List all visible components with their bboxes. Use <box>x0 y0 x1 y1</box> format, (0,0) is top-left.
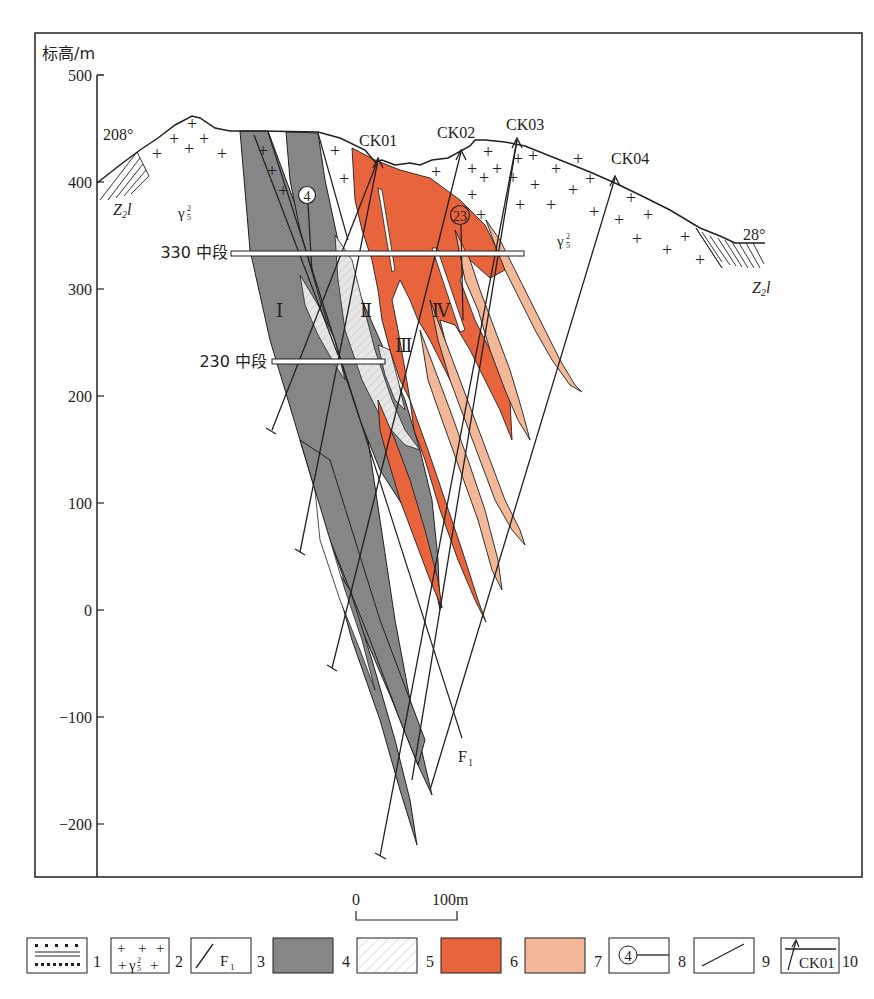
svg-text:+: + <box>614 210 624 230</box>
y-axis-title: 标高/m <box>42 44 95 63</box>
ore-body-2: Ⅱ <box>360 301 372 321</box>
y-tick-minus200: −200 <box>59 816 92 833</box>
azimuth-left: 208° <box>103 126 133 143</box>
azimuth-right: 28° <box>743 226 765 243</box>
svg-text:+: + <box>117 940 125 956</box>
svg-text:+: + <box>546 195 556 215</box>
svg-text:4: 4 <box>624 948 632 964</box>
legend: 1 + + + + γ 2 5 + 2 F 1 3 4 <box>27 938 858 973</box>
y-tick-200: 200 <box>68 388 92 405</box>
svg-text:+: + <box>551 159 561 179</box>
svg-text:+: + <box>467 159 477 179</box>
stratum-hatch-left <box>100 152 149 200</box>
ore-body-1: Ⅰ <box>276 301 283 321</box>
svg-text:5: 5 <box>566 241 570 250</box>
svg-text:+: + <box>479 168 489 188</box>
svg-text:F: F <box>220 953 228 969</box>
legend-item-9: 9 <box>694 938 770 973</box>
svg-text:+: + <box>492 159 502 179</box>
svg-text:5: 5 <box>187 213 191 222</box>
stratum-label-left: Z2l <box>113 201 132 220</box>
svg-text:+: + <box>589 202 599 222</box>
svg-text:+: + <box>573 149 583 169</box>
svg-text:+: + <box>187 114 197 134</box>
svg-text:10: 10 <box>842 953 858 970</box>
svg-text:2: 2 <box>566 232 570 241</box>
svg-text:+: + <box>626 188 636 208</box>
svg-text:γ: γ <box>177 205 185 221</box>
ore-body-3: Ⅲ <box>395 336 412 356</box>
label-ck02: CK02 <box>437 124 475 141</box>
svg-text:+: + <box>632 229 642 249</box>
legend-item-5: 5 <box>357 938 434 973</box>
svg-text:1: 1 <box>230 962 235 972</box>
svg-text:+: + <box>330 141 340 161</box>
svg-text:+: + <box>138 940 146 956</box>
svg-text:+: + <box>431 162 441 182</box>
ore-body-4: Ⅳ <box>432 301 451 321</box>
svg-text:+: + <box>643 205 653 225</box>
scale-bar: 0 100m <box>352 891 469 920</box>
legend-item-7: 7 <box>525 938 602 973</box>
svg-text:+: + <box>339 169 349 189</box>
svg-text:+: + <box>662 240 672 260</box>
svg-text:1: 1 <box>93 953 101 970</box>
legend-item-10: CK01 10 <box>781 938 858 973</box>
svg-text:+: + <box>515 195 525 215</box>
svg-text:2: 2 <box>175 953 183 970</box>
svg-text:1: 1 <box>468 757 473 768</box>
svg-text:+: + <box>152 144 162 164</box>
legend-item-4: 4 <box>273 938 350 973</box>
cross-section-figure: 标高/m 500 400 300 200 100 0 −100 −200 <box>0 0 874 999</box>
svg-text:+: + <box>267 161 277 181</box>
svg-text:5: 5 <box>137 964 141 973</box>
label-ck03: CK03 <box>506 116 544 133</box>
svg-text:+: + <box>530 175 540 195</box>
svg-text:230 中段: 230 中段 <box>199 352 267 371</box>
svg-text:+: + <box>184 139 194 159</box>
svg-text:330 中段: 330 中段 <box>160 243 228 262</box>
svg-text:+: + <box>169 129 179 149</box>
legend-item-2: + + + + γ 2 5 + 2 <box>111 938 183 973</box>
svg-text:9: 9 <box>762 953 770 970</box>
label-ck04: CK04 <box>611 150 649 167</box>
svg-text:CK01: CK01 <box>799 955 835 971</box>
svg-text:+: + <box>118 957 126 973</box>
fault-f1-label: F 1 <box>458 748 473 768</box>
svg-text:7: 7 <box>594 953 602 970</box>
y-axis: 标高/m 500 400 300 200 100 0 −100 −200 <box>42 44 104 877</box>
svg-text:F: F <box>458 748 467 765</box>
y-tick-minus100: −100 <box>59 709 92 726</box>
svg-text:8: 8 <box>678 953 686 970</box>
svg-text:+: + <box>467 185 477 205</box>
svg-text:3: 3 <box>257 953 265 970</box>
svg-text:6: 6 <box>510 953 518 970</box>
y-tick-0: 0 <box>84 602 92 619</box>
label-ck01: CK01 <box>359 132 397 149</box>
svg-text:+: + <box>680 227 690 247</box>
svg-text:+: + <box>476 205 486 225</box>
svg-text:+: + <box>585 169 595 189</box>
svg-text:0: 0 <box>352 891 360 908</box>
svg-text:γ: γ <box>556 233 564 249</box>
svg-text:4: 4 <box>342 953 350 970</box>
svg-text:Z2l: Z2l <box>113 201 132 220</box>
legend-item-1: 1 <box>27 938 101 973</box>
svg-text:Z2l: Z2l <box>752 279 771 298</box>
svg-text:4: 4 <box>304 189 311 204</box>
stratum-label-right: Z2l <box>752 279 771 298</box>
svg-text:γ: γ <box>128 957 136 973</box>
svg-text:100m: 100m <box>432 891 469 908</box>
svg-text:+: + <box>695 250 705 270</box>
legend-item-8: 4 8 <box>609 938 686 973</box>
svg-text:2: 2 <box>187 204 191 213</box>
y-tick-400: 400 <box>68 174 92 191</box>
y-tick-500: 500 <box>68 67 92 84</box>
svg-text:+: + <box>199 129 209 149</box>
svg-text:+: + <box>528 146 538 166</box>
svg-text:5: 5 <box>426 953 434 970</box>
y-tick-300: 300 <box>68 281 92 298</box>
svg-text:+: + <box>217 144 227 164</box>
legend-item-6: 6 <box>441 938 518 973</box>
svg-text:+: + <box>568 180 578 200</box>
